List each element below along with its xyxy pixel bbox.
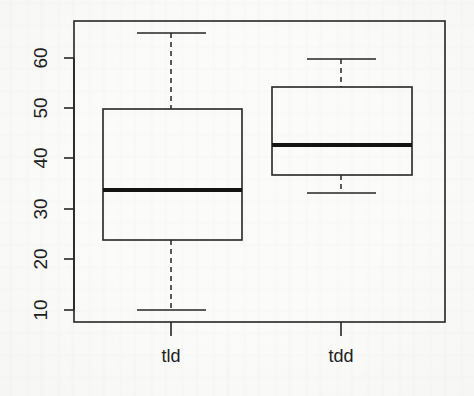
y-tick-label-50: 50 — [30, 97, 51, 118]
box-iqr-tdd — [272, 87, 412, 175]
box-group-tdd — [272, 59, 412, 193]
y-axis: 60 50 40 30 20 10 — [30, 47, 75, 320]
x-tick-label-tld: tld — [161, 346, 180, 366]
y-tick-label-10: 10 — [30, 299, 51, 320]
boxplot-figure: 60 50 40 30 20 10 tld tdd — [0, 0, 474, 396]
box-group-tld — [103, 33, 242, 310]
y-tick-label-20: 20 — [30, 248, 51, 269]
boxplot-canvas: 60 50 40 30 20 10 tld tdd — [0, 0, 474, 396]
x-tick-label-tdd: tdd — [328, 346, 353, 366]
plot-frame — [74, 21, 445, 322]
y-tick-label-30: 30 — [30, 198, 51, 219]
y-tick-label-40: 40 — [30, 147, 51, 168]
box-iqr-tld — [103, 109, 242, 240]
y-tick-label-60: 60 — [30, 47, 51, 68]
x-axis: tld tdd — [161, 322, 353, 366]
